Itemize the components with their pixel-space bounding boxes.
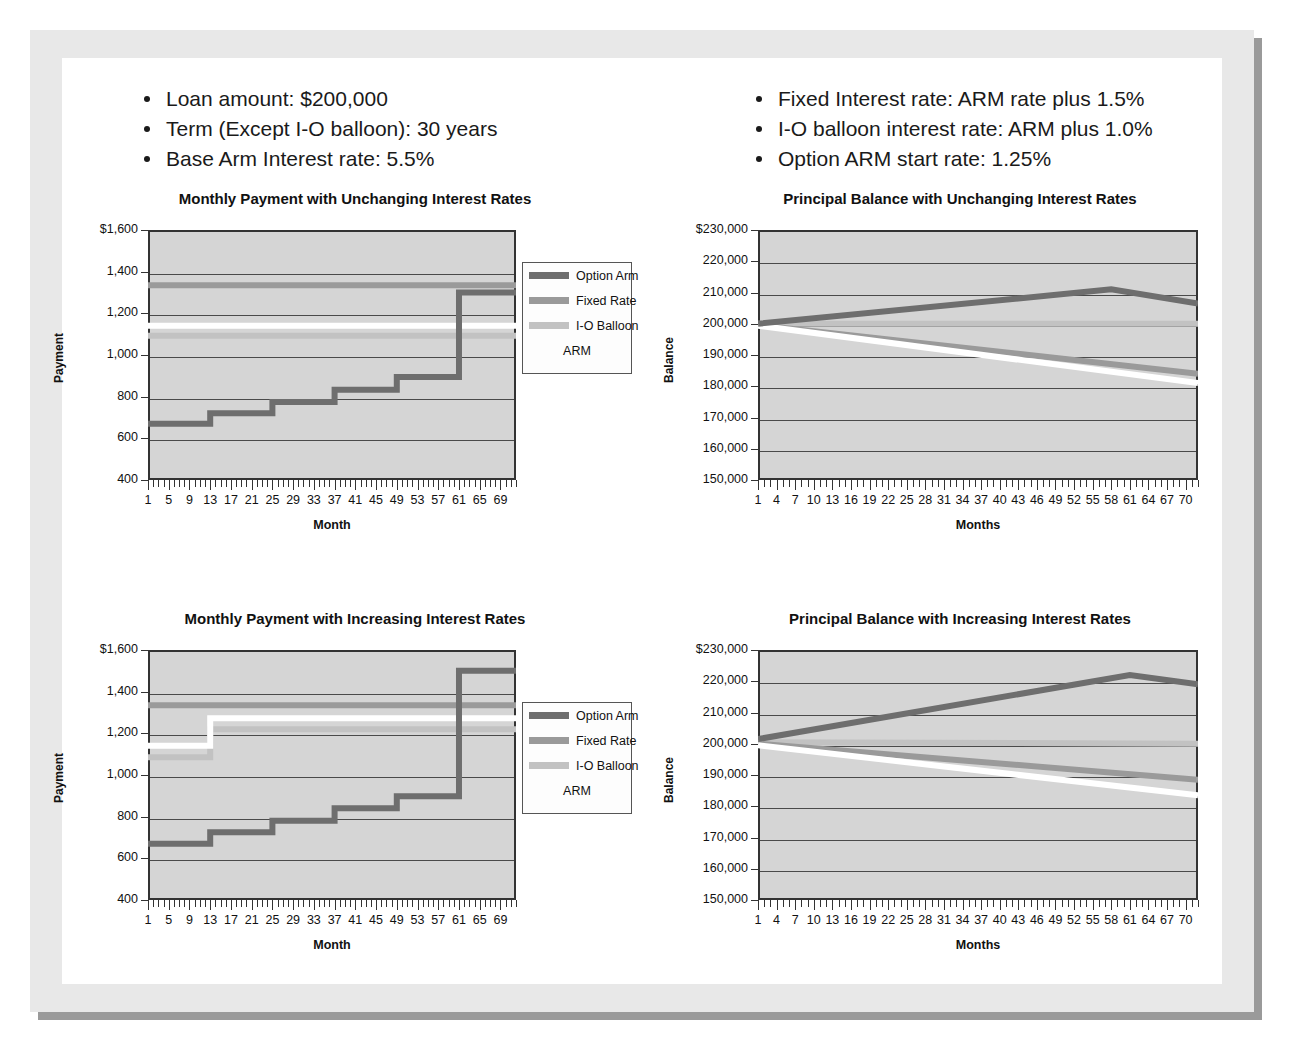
x-tick-mark: [511, 900, 512, 907]
x-tick-mark: [454, 900, 455, 907]
x-tick-mark: [1124, 480, 1125, 487]
x-tick-mark: [987, 900, 988, 907]
x-tick-mark: [764, 480, 765, 487]
x-tick-mark: [820, 480, 821, 487]
x-tick-mark: [272, 480, 273, 490]
y-tick-mark: [751, 838, 758, 839]
legend-item[interactable]: ARM: [523, 778, 631, 803]
x-tick-mark: [1068, 900, 1069, 907]
x-tick-mark: [1117, 480, 1118, 487]
plot-area: [148, 650, 516, 900]
x-tick-mark: [857, 480, 858, 487]
x-tick-mark: [975, 900, 976, 907]
y-axis-tick-label: 1,000: [66, 767, 138, 781]
y-axis-tick-label: 1,200: [66, 725, 138, 739]
legend-item[interactable]: I-O Balloon: [523, 313, 631, 338]
y-tick-mark: [751, 261, 758, 262]
x-tick-mark: [888, 480, 889, 490]
x-tick-mark: [1099, 480, 1100, 487]
y-axis-tick-label: 160,000: [676, 861, 748, 875]
x-tick-mark: [189, 900, 190, 910]
x-tick-mark: [1012, 480, 1013, 487]
y-axis-tick-label: $230,000: [676, 642, 748, 656]
x-tick-mark: [257, 900, 258, 907]
x-tick-mark: [1161, 480, 1162, 487]
y-tick-mark: [141, 438, 148, 439]
x-axis-title: Month: [148, 518, 516, 532]
x-tick-mark: [267, 480, 268, 487]
x-tick-mark: [397, 480, 398, 490]
chart-title: Monthly Payment with Unchanging Interest…: [70, 190, 640, 207]
legend-label: Option Arm: [576, 269, 639, 283]
x-tick-mark: [1043, 900, 1044, 907]
legend-swatch-icon: [529, 737, 569, 744]
bullet-dot-icon: [144, 96, 150, 102]
x-tick-mark: [1074, 480, 1075, 490]
x-tick-mark: [412, 480, 413, 487]
legend-item[interactable]: Option Arm: [523, 263, 631, 288]
gridline: [760, 746, 1196, 747]
y-axis-tick-label: 180,000: [676, 378, 748, 392]
bullet-dot-icon: [756, 126, 762, 132]
chart-payment-unchanging: Monthly Payment with Unchanging Interest…: [70, 190, 640, 560]
x-tick-mark: [464, 900, 465, 907]
legend-item[interactable]: ARM: [523, 338, 631, 363]
x-tick-mark: [1031, 900, 1032, 907]
x-tick-mark: [226, 900, 227, 907]
x-tick-mark: [195, 480, 196, 487]
x-tick-mark: [355, 900, 356, 910]
x-tick-mark: [490, 480, 491, 487]
x-tick-mark: [449, 900, 450, 907]
x-tick-mark: [907, 900, 908, 910]
legend-label: ARM: [563, 344, 591, 358]
y-axis-tick-label: 1,400: [66, 264, 138, 278]
x-tick-mark: [475, 900, 476, 907]
x-tick-mark: [298, 900, 299, 907]
x-tick-mark: [433, 480, 434, 487]
x-tick-mark: [210, 480, 211, 490]
chart-payment-increasing: Monthly Payment with Increasing Interest…: [70, 610, 640, 980]
x-tick-mark: [500, 480, 501, 490]
x-tick-mark: [288, 480, 289, 487]
x-tick-mark: [350, 480, 351, 487]
x-tick-mark: [1049, 480, 1050, 487]
x-tick-mark: [758, 900, 759, 910]
x-tick-mark: [1179, 480, 1180, 487]
x-tick-mark: [506, 480, 507, 487]
legend-item[interactable]: Fixed Rate: [523, 288, 631, 313]
legend-item[interactable]: I-O Balloon: [523, 753, 631, 778]
x-tick-mark: [863, 900, 864, 907]
gridline: [150, 440, 514, 441]
x-tick-mark: [963, 900, 964, 910]
x-tick-mark: [495, 900, 496, 907]
x-tick-mark: [464, 480, 465, 487]
x-tick-mark: [324, 900, 325, 907]
legend-label: I-O Balloon: [576, 319, 639, 333]
x-tick-mark: [490, 900, 491, 907]
x-tick-mark: [1124, 900, 1125, 907]
x-tick-mark: [1117, 900, 1118, 907]
x-tick-mark: [174, 900, 175, 907]
x-tick-mark: [1099, 900, 1100, 907]
x-tick-mark: [371, 480, 372, 487]
x-tick-mark: [215, 900, 216, 907]
y-axis-tick-label: 1,200: [66, 305, 138, 319]
legend-item[interactable]: Option Arm: [523, 703, 631, 728]
x-tick-mark: [1018, 480, 1019, 490]
x-tick-mark: [1093, 480, 1094, 490]
x-tick-mark: [814, 480, 815, 490]
bullet-text: Base Arm Interest rate: 5.5%: [166, 147, 434, 170]
legend-swatch-icon: [529, 762, 569, 769]
x-tick-mark: [876, 480, 877, 487]
plot-area: [758, 650, 1198, 900]
x-tick-mark: [1024, 900, 1025, 907]
chart-balance-increasing: Principal Balance with Increasing Intere…: [660, 610, 1260, 980]
y-axis-tick-label: 150,000: [676, 472, 748, 486]
x-tick-mark: [438, 900, 439, 910]
legend-item[interactable]: Fixed Rate: [523, 728, 631, 753]
x-tick-mark: [418, 900, 419, 910]
x-tick-mark: [309, 900, 310, 907]
x-tick-mark: [329, 900, 330, 907]
x-tick-mark: [1055, 900, 1056, 910]
gridline: [760, 326, 1196, 327]
